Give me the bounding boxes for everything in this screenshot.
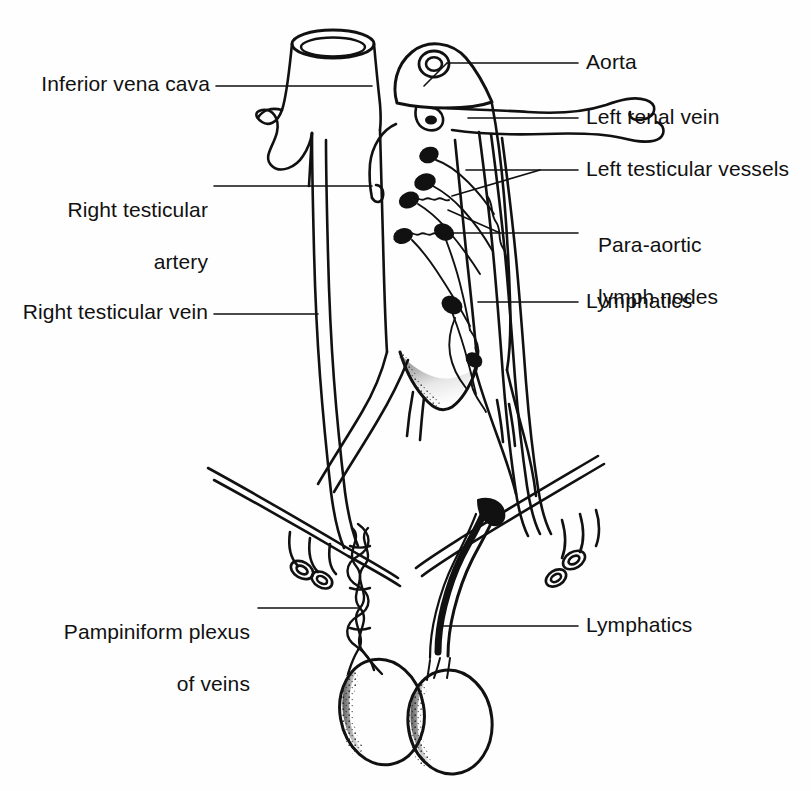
cut-vessel-ends-right [288,532,336,592]
para-aortic-lymph-nodes [391,144,485,371]
label-para-aortic-line1: Para-aortic [598,233,702,256]
lymphatics-cord-left [427,499,504,680]
label-left-renal-vein: Left renal vein [586,104,719,130]
label-right-testicular-artery-line1: Right testicular [68,198,209,221]
label-lymphatics-upper: Lymphatics [586,288,692,314]
label-aorta: Aorta [586,49,637,75]
label-right-testicular-artery-line2: artery [154,250,208,273]
label-pampiniform-plexus: Pampiniform plexus of veins [10,593,250,697]
label-pampiniform-plexus-line1: Pampiniform plexus [64,620,250,643]
label-right-testicular-artery: Right testicular artery [10,171,208,275]
pampiniform-plexus [347,524,382,674]
cut-vessel-ends-left [543,510,599,590]
label-inferior-vena-cava: Inferior vena cava [10,71,210,97]
label-right-testicular-vein: Right testicular vein [6,299,208,325]
right-testicular-vein [312,133,358,548]
left-testicular-vessels [479,132,551,536]
label-lymphatics-lower: Lymphatics [586,612,692,638]
label-left-testicular-vessels: Left testicular vessels [586,156,789,182]
label-pampiniform-plexus-line2: of veins [177,672,250,695]
right-testicular-artery [370,124,396,202]
